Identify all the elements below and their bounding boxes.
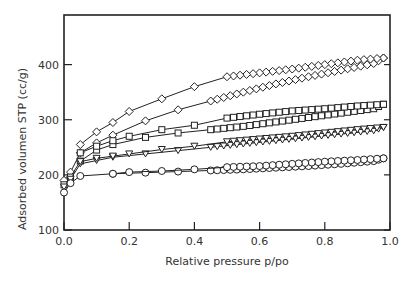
y-axis-label: Adsorbed volumen STP (cc/g) bbox=[16, 68, 29, 230]
plot-area: 0.00.20.40.60.81.0100200300400 bbox=[38, 15, 399, 248]
x-tick-label: 0.8 bbox=[316, 235, 334, 248]
isotherm-chart: 0.00.20.40.60.81.0100200300400 Relative … bbox=[0, 0, 416, 283]
x-tick-label: 0.4 bbox=[186, 235, 204, 248]
y-tick-label: 400 bbox=[38, 59, 59, 72]
y-tick-label: 200 bbox=[38, 169, 59, 182]
y-tick-label: 100 bbox=[38, 224, 59, 237]
y-tick-label: 300 bbox=[38, 114, 59, 127]
x-tick-label: 0.2 bbox=[120, 235, 138, 248]
x-axis-label: Relative pressure p/po bbox=[165, 255, 289, 268]
x-tick-label: 1.0 bbox=[381, 235, 399, 248]
x-tick-label: 0.6 bbox=[251, 235, 269, 248]
